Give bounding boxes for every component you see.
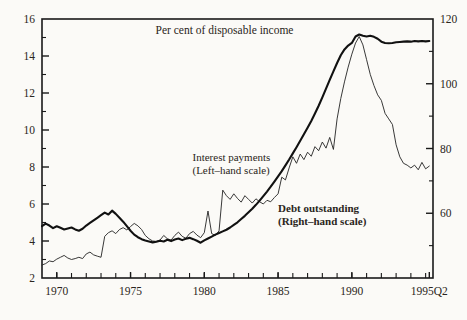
debt-outstanding-label-line-1: Debt outstanding xyxy=(278,202,359,214)
left-axis-tick-label: 14 xyxy=(24,50,36,62)
x-axis-tick-label: 1990 xyxy=(340,285,363,297)
plot-frame xyxy=(42,19,433,278)
chart-figure: 2468101214166080100120197019751980198519… xyxy=(0,0,467,320)
right-axis-tick-label: 100 xyxy=(440,78,458,90)
left-axis-tick-label: 6 xyxy=(29,198,35,210)
right-axis-tick-label: 60 xyxy=(440,207,452,219)
series-line-debt-outstanding xyxy=(42,35,429,243)
x-axis-tick-label: 1985 xyxy=(267,285,290,297)
x-axis-tick-label: 1995Q2 xyxy=(411,285,448,297)
left-axis-tick-label: 4 xyxy=(29,235,35,247)
x-axis-tick-label: 1975 xyxy=(119,285,142,297)
x-axis-tick-label: 1970 xyxy=(45,285,68,297)
right-axis-tick-label: 80 xyxy=(440,143,452,155)
left-axis-tick-label: 8 xyxy=(29,161,35,173)
right-axis-tick-label: 120 xyxy=(440,13,458,25)
line-chart: 2468101214166080100120197019751980198519… xyxy=(0,0,467,320)
debt-outstanding-label-line-2: (Right–hand scale) xyxy=(278,215,367,228)
left-axis-tick-label: 10 xyxy=(24,124,36,136)
interest-payments-label-line-1: Interest payments xyxy=(192,151,270,163)
left-axis-tick-label: 12 xyxy=(24,87,36,99)
left-axis-tick-label: 16 xyxy=(24,13,36,25)
interest-payments-label-line-2: (Left–hand scale) xyxy=(192,164,270,177)
chart-title: Per cent of disposable income xyxy=(156,24,294,37)
x-axis-tick-label: 1980 xyxy=(193,285,216,297)
left-axis-tick-label: 2 xyxy=(29,272,35,284)
